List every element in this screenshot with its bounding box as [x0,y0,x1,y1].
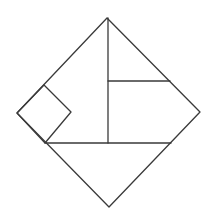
diagram-canvas [0,0,210,219]
tangram-diagram [0,0,210,219]
small-square [17,85,71,143]
